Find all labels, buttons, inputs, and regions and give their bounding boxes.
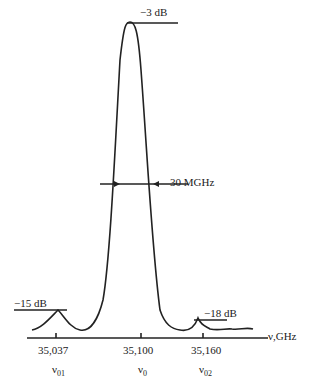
label-minus-18db: −18 dB (204, 307, 237, 319)
label-minus-3db: −3 dB (140, 6, 167, 18)
tick-label-3: 35,160 (191, 344, 221, 356)
tick-label-1: 35,037 (38, 344, 68, 356)
label-minus-15db: −15 dB (14, 297, 47, 309)
symbol-nu01: ν01 (52, 363, 65, 378)
label-30mghz: 30 MGHz (170, 176, 214, 188)
x-axis-label: ν,GHz (268, 330, 297, 342)
symbol-nu02: ν02 (199, 363, 212, 378)
symbol-nu0: ν0 (138, 363, 147, 378)
spectrum-plot (0, 0, 313, 387)
tick-label-2: 35,100 (123, 344, 153, 356)
